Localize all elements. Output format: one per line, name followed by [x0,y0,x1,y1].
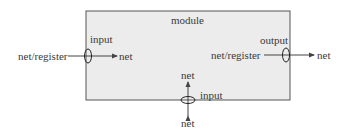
right-port-label: output [260,34,288,46]
left-outside-label: net/register [18,50,67,62]
right-outside-label: net [317,49,330,61]
module-label: module [171,14,204,26]
bottom-outside-label: net [181,117,194,129]
bottom-inside-label: net [181,69,194,81]
left-port-label: input [90,33,113,45]
right-inside-label: net/register [211,49,260,61]
bottom-port-label: input [200,89,223,101]
left-inside-label: net [119,50,132,62]
